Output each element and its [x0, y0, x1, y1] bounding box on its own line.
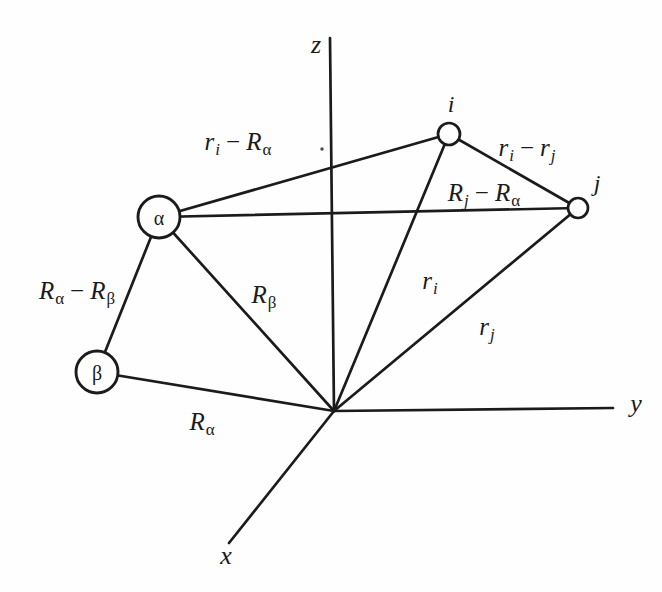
minus-sign: −: [70, 277, 84, 304]
label-part: r: [422, 267, 432, 294]
label-part: r: [205, 128, 215, 155]
diagram-figure: z y x α β i j ri−Rα ri−rj Rj−Rα Rα−Rβ Rβ…: [0, 0, 662, 592]
z-axis-line: [330, 38, 334, 411]
label-part: R: [495, 179, 510, 206]
electron-i-label: i: [448, 92, 455, 116]
label-subscript: β: [268, 293, 277, 312]
label-subscript: i: [509, 146, 514, 165]
vector-alpha-to-i-line: [159, 134, 449, 217]
label-subscript: α: [206, 420, 215, 439]
label-part: R: [189, 408, 204, 435]
label-subscript: j: [551, 146, 556, 165]
nucleus-alpha-label: α: [154, 208, 164, 228]
vector-label-Ralpha-minus-Rbeta: Rα−Rβ: [39, 278, 115, 303]
minus-sign: −: [475, 179, 489, 206]
y-axis-line: [334, 408, 613, 411]
vector-label-rj: rj: [479, 314, 494, 339]
vector-label-ri-minus-Ralpha: ri−Rα: [205, 129, 272, 154]
electron-i-circle: [438, 123, 460, 145]
minus-sign: −: [520, 134, 534, 161]
label-part: r: [498, 134, 508, 161]
vector-label-ri-minus-rj: ri−rj: [498, 135, 555, 160]
label-part: R: [252, 281, 267, 308]
electron-j-circle: [568, 198, 588, 218]
label-subscript: i: [433, 279, 438, 298]
vector-alpha-to-origin-line: [159, 217, 334, 411]
y-axis-label: y: [630, 391, 642, 417]
label-subscript: α: [511, 191, 520, 210]
vector-label-Rbeta: Rβ: [252, 282, 277, 307]
label-part: R: [39, 277, 54, 304]
label-part: R: [246, 128, 261, 155]
label-part: R: [448, 179, 463, 206]
label-part: r: [540, 134, 550, 161]
x-axis-label: x: [220, 543, 232, 569]
label-subscript: i: [215, 140, 220, 159]
minus-sign: −: [226, 128, 240, 155]
label-subscript: β: [106, 289, 115, 308]
x-axis-line: [229, 411, 334, 543]
label-part: r: [479, 313, 489, 340]
label-subscript: j: [464, 191, 469, 210]
vector-label-ri: ri: [422, 268, 437, 293]
vector-origin-to-j-line: [334, 208, 578, 411]
label-subscript: j: [490, 325, 495, 344]
vector-beta-to-origin-line: [97, 372, 334, 411]
label-subscript: α: [55, 289, 64, 308]
electron-j-label: j: [594, 171, 601, 195]
z-axis-label: z: [311, 32, 321, 58]
vector-label-Rj-minus-Ralpha: Rj−Rα: [448, 180, 520, 205]
stray-ink-dot: [320, 147, 323, 150]
label-subscript: α: [262, 140, 271, 159]
vector-label-Ralpha: Rα: [189, 409, 214, 434]
label-part: R: [90, 277, 105, 304]
nucleus-beta-label: β: [92, 363, 102, 383]
